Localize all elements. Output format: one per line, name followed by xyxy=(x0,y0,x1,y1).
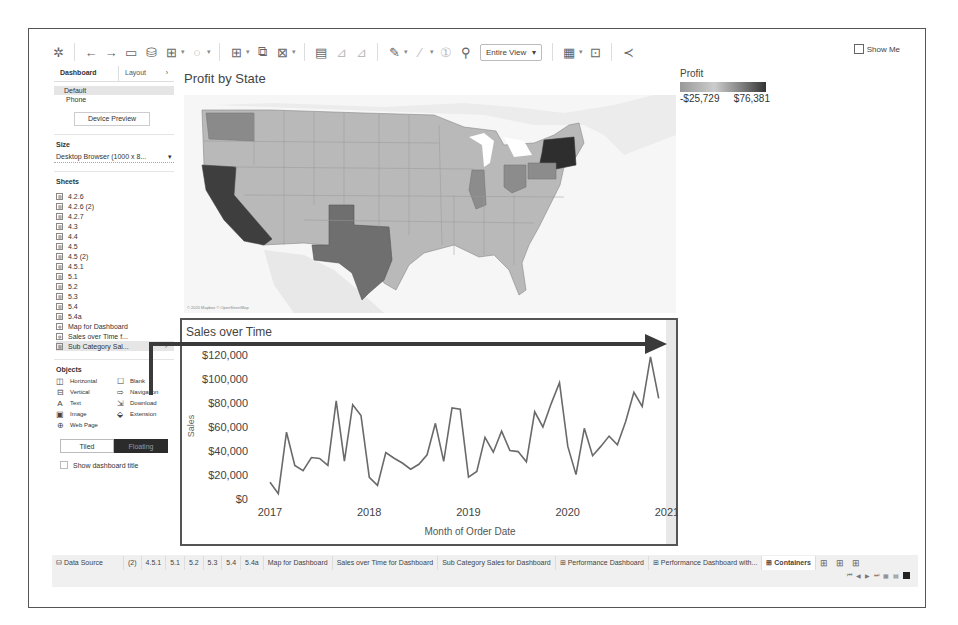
duplicate-icon[interactable]: ⧉ xyxy=(254,44,270,60)
object-text[interactable]: AText xyxy=(56,399,114,407)
sheet-tab[interactable]: 5.3 xyxy=(204,556,223,570)
dropdown-arrow-icon[interactable]: ▾ xyxy=(246,48,250,56)
sales-line-chart[interactable]: $0$20,000$40,000$60,000$80,000$100,000$1… xyxy=(180,318,678,546)
sheet-item[interactable]: ▥4.5.1 xyxy=(56,261,174,271)
sheet-tab[interactable]: 5.4 xyxy=(222,556,241,570)
highlight-icon[interactable]: ▤ xyxy=(313,44,329,60)
format-icon[interactable]: ⁄ xyxy=(412,44,428,60)
redo-icon[interactable]: → xyxy=(103,44,119,60)
presentation-icon[interactable]: ▦ xyxy=(561,44,577,60)
sheet-tab[interactable]: Map for Dashboard xyxy=(264,556,333,570)
new-story-icon[interactable]: ⊞ xyxy=(848,558,864,568)
show-me-button[interactable]: Show Me xyxy=(854,44,900,54)
sheet-item[interactable]: ▥4.2.6 xyxy=(56,191,174,201)
tableau-logo-icon[interactable]: ✲ xyxy=(50,44,66,60)
swap-icon[interactable]: ⊞ xyxy=(228,44,244,60)
object-vertical[interactable]: ⊟Vertical xyxy=(56,388,114,396)
sheet-tab[interactable]: (2) xyxy=(124,556,142,570)
dropdown-arrow-icon[interactable]: ▾ xyxy=(207,48,211,56)
dropdown-arrow-icon[interactable]: ▾ xyxy=(404,48,408,56)
tab-dashboard[interactable]: Dashboard xyxy=(54,66,118,81)
sheet-item[interactable]: ▥4.2.6 (2) xyxy=(56,201,174,211)
device-phone[interactable]: Phone xyxy=(54,95,174,104)
last-tab-icon[interactable]: ⏭ xyxy=(874,572,879,579)
object-download[interactable]: ⇲Download xyxy=(116,399,174,407)
sheet-tab[interactable]: 5.2 xyxy=(185,556,204,570)
object-web-page[interactable]: ⊕Web Page xyxy=(56,421,114,429)
sheet-item[interactable]: ▥5.2 xyxy=(56,281,174,291)
object-extension[interactable]: ⬙Extension xyxy=(116,410,174,418)
device-default[interactable]: Default xyxy=(54,86,174,95)
sales-line[interactable] xyxy=(270,357,659,494)
clear-icon[interactable]: ⊠ xyxy=(274,44,290,60)
show-title-checkbox[interactable] xyxy=(60,461,68,469)
dashboard-tab[interactable]: ⊞ Performance Dashboard xyxy=(556,556,649,570)
sheet-item[interactable]: ▥5.4 xyxy=(56,301,174,311)
refresh-icon[interactable]: ○ xyxy=(189,44,205,60)
sheet-item[interactable]: ▥4.2.7 xyxy=(56,211,174,221)
object-image[interactable]: ▣Image xyxy=(56,410,114,418)
object-navigation[interactable]: ⇨Navigation xyxy=(116,388,174,396)
sheet-tab[interactable]: Sales over Time for Dashboard xyxy=(333,556,439,570)
tabs-view-icon[interactable] xyxy=(903,572,910,579)
new-sheet-icon[interactable]: ⊞ xyxy=(163,44,179,60)
filmstrip-icon[interactable]: ▤ xyxy=(893,572,899,579)
device-icon[interactable]: ⊡ xyxy=(587,44,603,60)
sheet-tab[interactable]: 4.5.1 xyxy=(142,556,167,570)
sort-asc-icon[interactable]: ⊿ xyxy=(333,44,349,60)
sheet-item[interactable]: ▥4.5 xyxy=(56,241,174,251)
data-source-tab[interactable]: ⛁ Data Source xyxy=(52,556,124,570)
fit-dropdown[interactable]: Entire View ▾ xyxy=(480,44,542,61)
sheet-item-selected[interactable]: ▥Sub Category Sal...↗ xyxy=(56,341,174,351)
dropdown-arrow-icon[interactable]: ▾ xyxy=(292,48,296,56)
sheet-item[interactable]: ▥5.3 xyxy=(56,291,174,301)
sheet-tab[interactable]: 5.4a xyxy=(241,556,264,570)
first-tab-icon[interactable]: ⏮ xyxy=(847,572,852,579)
dashboard-tab-active[interactable]: ⊞ Containers xyxy=(762,556,816,570)
next-tab-icon[interactable]: ▶ xyxy=(865,572,870,579)
sheet-sorter-icon[interactable]: ▦ xyxy=(883,572,889,579)
save-icon[interactable]: ▭ xyxy=(123,44,139,60)
size-dropdown[interactable]: Desktop Browser (1000 x 8... ▾ xyxy=(54,152,174,163)
toolbar: ✲ ← → ▭ ⛁ ⊞▾ ○▾ ⊞▾ ⧉ ⊠▾ ▤ ⊿ ⊿ ✎▾ ⁄▾ ① ⚲ … xyxy=(48,40,918,64)
sheet-item[interactable]: ◍Sales over Time f... xyxy=(56,331,174,341)
prev-tab-icon[interactable]: ◀ xyxy=(856,572,861,579)
profit-legend[interactable]: Profit -$25,729 $76,381 xyxy=(680,68,770,114)
sheet-tab[interactable]: Sub Category Sales for Dashboard xyxy=(438,556,556,570)
label-icon[interactable]: ✎ xyxy=(386,44,402,60)
sheet-tab[interactable]: 5.1 xyxy=(166,556,185,570)
dropdown-arrow-icon[interactable]: ▾ xyxy=(430,48,434,56)
floating-button[interactable]: Floating xyxy=(114,439,168,453)
y-axis-label: Sales xyxy=(186,414,196,437)
legend-title: Profit xyxy=(680,68,770,79)
sheet-item[interactable]: ▥5.1 xyxy=(56,271,174,281)
device-preview-button[interactable]: Device Preview xyxy=(74,112,150,126)
map-title: Profit by State xyxy=(184,71,266,86)
dashboard-tab[interactable]: ⊞ Performance Dashboard with... xyxy=(649,556,762,570)
pin-icon[interactable]: ⚲ xyxy=(458,44,474,60)
share-icon[interactable]: ≺ xyxy=(620,44,636,60)
sort-desc-icon[interactable]: ⊿ xyxy=(353,44,369,60)
open-sheet-icon[interactable]: ↗ xyxy=(164,342,170,350)
fix-axes-icon[interactable]: ① xyxy=(438,44,454,60)
profit-map[interactable] xyxy=(184,95,676,313)
new-worksheet-icon[interactable]: ⊞ xyxy=(816,558,832,568)
dropdown-arrow-icon[interactable]: ▾ xyxy=(579,48,583,56)
sheet-item[interactable]: ◍Map for Dashboard xyxy=(56,321,174,331)
undo-icon[interactable]: ← xyxy=(83,44,99,60)
object-horizontal[interactable]: ◫Horizontal xyxy=(56,377,114,385)
dropdown-arrow-icon[interactable]: ▾ xyxy=(181,48,185,56)
x-tick-label: 2017 xyxy=(258,506,282,518)
y-tick-label: $20,000 xyxy=(208,469,248,481)
object-blank[interactable]: ☐Blank xyxy=(116,377,174,385)
show-dashboard-title-row[interactable]: Show dashboard title xyxy=(60,461,174,469)
tab-layout[interactable]: Layout › xyxy=(118,66,174,81)
sheet-item[interactable]: ▥4.5 (2) xyxy=(56,251,174,261)
sheet-item[interactable]: ▥4.4 xyxy=(56,231,174,241)
sheet-item[interactable]: ▥5.4a xyxy=(56,311,174,321)
map-attribution[interactable]: © 2020 Mapbox © OpenStreetMap xyxy=(187,305,249,310)
tiled-button[interactable]: Tiled xyxy=(60,439,114,453)
sheet-item[interactable]: ▥4.3 xyxy=(56,221,174,231)
new-datasource-icon[interactable]: ⛁ xyxy=(143,44,159,60)
new-dashboard-icon[interactable]: ⊞ xyxy=(832,558,848,568)
